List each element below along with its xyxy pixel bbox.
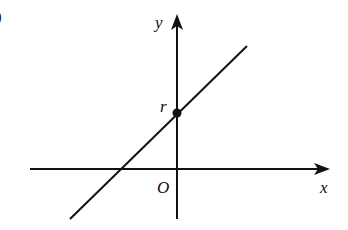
y-intercept-point bbox=[173, 109, 182, 118]
coordinate-diagram: ) y x O r bbox=[0, 0, 348, 230]
intercept-label: r bbox=[160, 97, 167, 116]
x-axis bbox=[30, 163, 330, 175]
y-axis-label: y bbox=[153, 13, 163, 32]
origin-label: O bbox=[157, 178, 169, 197]
x-axis-label: x bbox=[319, 178, 328, 197]
corner-mark: ) bbox=[0, 7, 2, 26]
